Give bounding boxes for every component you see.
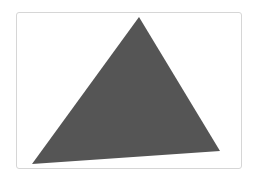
triangle-figure [0, 0, 261, 182]
triangle-shape [32, 17, 220, 164]
